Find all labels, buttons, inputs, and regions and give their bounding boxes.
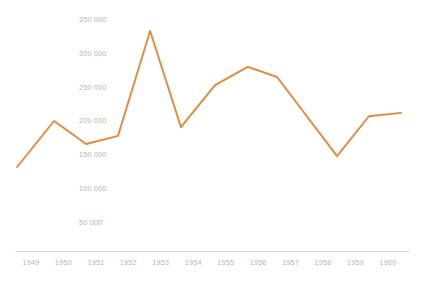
y-tick-label: 100 000	[79, 185, 107, 192]
x-tick-label: 1960	[373, 259, 403, 266]
y-tick-label: 150 000	[79, 151, 107, 158]
y-tick-label: 250 000	[79, 84, 107, 91]
x-axis-line	[15, 251, 410, 252]
y-tick-label: 300 000	[79, 50, 107, 57]
x-tick-label: 1958	[308, 259, 338, 266]
x-tick-label: 1956	[243, 259, 273, 266]
plot-area	[0, 0, 423, 281]
x-tick-label: 1952	[113, 259, 143, 266]
x-tick-label: 1954	[178, 259, 208, 266]
y-tick-label: 50 000	[79, 219, 102, 226]
x-tick-label: 1953	[146, 259, 176, 266]
x-tick-label: 1959	[341, 259, 371, 266]
x-tick-label: 1955	[211, 259, 241, 266]
series-line-1	[17, 31, 401, 167]
y-tick-label: 350 000	[79, 16, 107, 23]
x-tick-label: 1950	[48, 259, 78, 266]
line-chart: 350 000300 000250 000200 000150 000100 0…	[0, 0, 423, 281]
y-tick-label: 200 000	[79, 117, 107, 124]
x-tick-label: 1951	[81, 259, 111, 266]
x-tick-label: 1949	[16, 259, 46, 266]
x-tick-label: 1957	[276, 259, 306, 266]
